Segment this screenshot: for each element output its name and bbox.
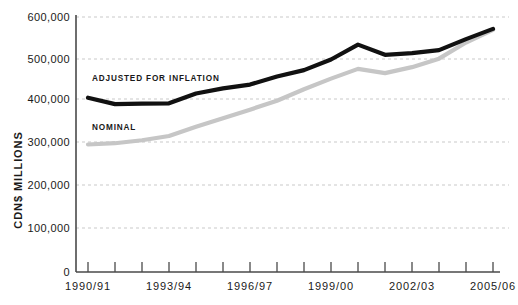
series-label-adjusted: ADJUSTED FOR INFLATION [92,74,220,83]
x-tick-label-1993-94: 1993/94 [146,280,192,292]
x-tick-label-2002-03: 2002/03 [389,280,435,292]
x-tick-label-1999-00: 1999/00 [308,280,354,292]
y-tick-label-200000: 200,000 [27,179,70,191]
y-tick-label-400000: 400,000 [27,93,70,105]
y-tick-labels: 600,000 500,000 400,000 300,000 200,000 … [27,11,70,278]
y-tick-label-0: 0 [63,266,70,278]
y-tick-label-600000: 600,000 [27,11,70,23]
series-label-nominal: NOMINAL [92,123,136,132]
chart-plot-area: 600,000 500,000 400,000 300,000 200,000 … [0,0,518,305]
y-tick-label-100000: 100,000 [27,222,70,234]
x-tick-label-1990-91: 1990/91 [65,280,111,292]
y-tick-label-500000: 500,000 [27,53,70,65]
series-line-nominal [88,30,493,145]
y-axis-title: CDN$ MILLIONS [12,131,24,228]
x-axis [76,262,500,272]
x-tick-labels: 1990/91 1993/94 1996/97 1999/00 2002/03 … [65,280,516,292]
x-tick-label-1996-97: 1996/97 [227,280,273,292]
line-chart: 600,000 500,000 400,000 300,000 200,000 … [0,0,518,305]
y-tick-label-300000: 300,000 [27,136,70,148]
x-tick-label-2005-06: 2005/06 [470,280,516,292]
